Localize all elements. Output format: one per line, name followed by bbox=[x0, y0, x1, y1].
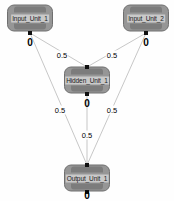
output-unit-1-input-port[interactable] bbox=[85, 163, 89, 167]
input-unit-2-value: 0 bbox=[143, 37, 149, 48]
network-diagram-canvas: Input_Unit_1 0 Input_Unit_2 0 Hidden_Uni… bbox=[0, 0, 174, 201]
output-unit-1-bottom-bar bbox=[71, 184, 103, 190]
input-unit-1-bottom-bar bbox=[14, 24, 46, 30]
hidden-unit-1-output-port[interactable] bbox=[85, 92, 89, 96]
hidden-unit-1-body: Hidden_Unit_1 bbox=[64, 67, 110, 94]
weight-label-input1-hidden: 0.5 bbox=[56, 51, 68, 60]
input-unit-2-output-port[interactable] bbox=[144, 31, 148, 35]
input-unit-2-body: Input_Unit_2 bbox=[123, 5, 169, 32]
output-unit-1-top-bar bbox=[71, 167, 103, 173]
input-unit-1-output-port[interactable] bbox=[28, 31, 32, 35]
node-input-unit-1[interactable]: Input_Unit_1 bbox=[7, 5, 53, 32]
output-unit-1-value: 0 bbox=[84, 190, 90, 201]
hidden-unit-1-top-bar bbox=[71, 69, 103, 75]
input-unit-2-bottom-bar bbox=[130, 24, 162, 30]
weight-label-hidden-output: 0.5 bbox=[81, 131, 93, 140]
input-unit-1-top-bar bbox=[14, 7, 46, 13]
node-output-unit-1[interactable]: Output_Unit_1 bbox=[64, 165, 110, 192]
weight-label-input2-output: 0.5 bbox=[106, 106, 118, 115]
input-unit-1-value: 0 bbox=[27, 37, 33, 48]
input-unit-1-body: Input_Unit_1 bbox=[7, 5, 53, 32]
output-unit-1-label: Output_Unit_1 bbox=[66, 174, 109, 182]
hidden-unit-1-input-port[interactable] bbox=[85, 65, 89, 69]
hidden-unit-1-bottom-bar bbox=[71, 86, 103, 92]
hidden-unit-1-value: 0 bbox=[84, 98, 90, 109]
input-unit-1-label: Input_Unit_1 bbox=[11, 14, 49, 22]
output-unit-1-body: Output_Unit_1 bbox=[64, 165, 110, 192]
weight-label-input2-hidden: 0.5 bbox=[106, 51, 118, 60]
weight-label-input1-output: 0.5 bbox=[54, 106, 66, 115]
input-unit-2-label: Input_Unit_2 bbox=[127, 14, 165, 22]
hidden-unit-1-label: Hidden_Unit_1 bbox=[65, 76, 109, 84]
node-input-unit-2[interactable]: Input_Unit_2 bbox=[123, 5, 169, 32]
node-hidden-unit-1[interactable]: Hidden_Unit_1 bbox=[64, 67, 110, 94]
input-unit-2-top-bar bbox=[130, 7, 162, 13]
